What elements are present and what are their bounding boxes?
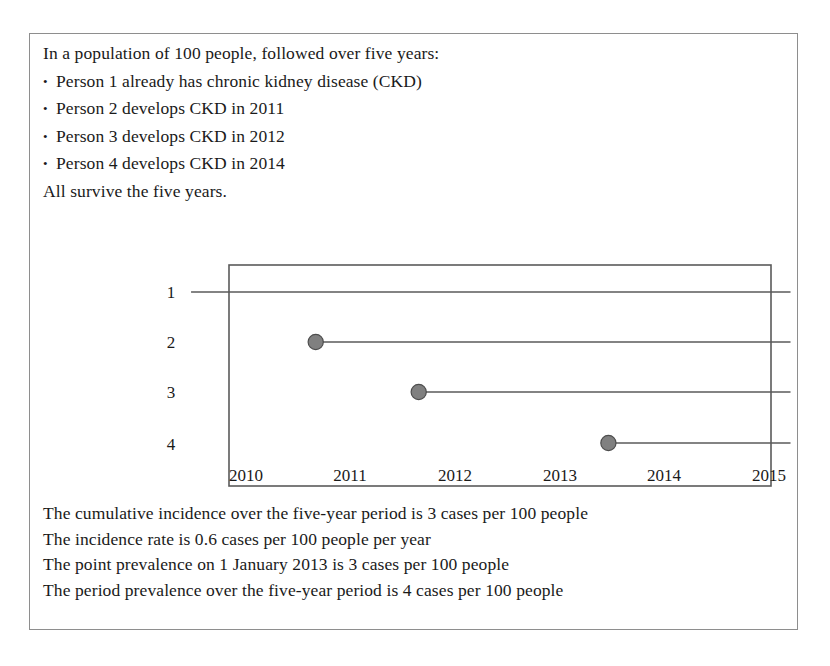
premise-bullet-3: • Person 3 develops CKD in 2012 xyxy=(43,123,643,151)
figure-frame: In a population of 100 people, followed … xyxy=(29,33,798,630)
y-axis-tick-3: 3 xyxy=(159,384,183,401)
conclusion-point-prevalence: The point prevalence on 1 January 2013 i… xyxy=(43,552,763,578)
conclusion-incidence-rate: The incidence rate is 0.6 cases per 100 … xyxy=(43,527,763,553)
x-axis-tick-2011: 2011 xyxy=(320,467,380,484)
timeline-chart: 1 2 3 4 2010 2011 2012 2013 2014 2015 xyxy=(30,224,799,489)
plot-border xyxy=(229,265,771,486)
bullet-icon: • xyxy=(43,68,48,96)
onset-marker-person-2 xyxy=(308,334,323,349)
y-axis-tick-2: 2 xyxy=(159,334,183,351)
onset-marker-person-4 xyxy=(601,435,616,450)
bullet-icon: • xyxy=(43,123,48,151)
bullet-icon: • xyxy=(43,150,48,178)
conclusion-period-prevalence: The period prevalence over the five-year… xyxy=(43,578,763,604)
premise-bullet-3-text: Person 3 develops CKD in 2012 xyxy=(56,126,285,146)
x-axis-tick-2013: 2013 xyxy=(530,467,590,484)
premise-block: In a population of 100 people, followed … xyxy=(43,40,643,205)
conclusions-block: The cumulative incidence over the five-y… xyxy=(43,501,763,603)
onset-marker-person-3 xyxy=(411,384,426,399)
premise-closing: All survive the five years. xyxy=(43,178,643,206)
y-axis-tick-1: 1 xyxy=(159,284,183,301)
x-axis-tick-2010: 2010 xyxy=(216,467,276,484)
premise-bullet-2: • Person 2 develops CKD in 2011 xyxy=(43,95,643,123)
chart-canvas xyxy=(30,224,799,489)
premise-bullet-4: • Person 4 develops CKD in 2014 xyxy=(43,150,643,178)
premise-intro: In a population of 100 people, followed … xyxy=(43,40,643,68)
x-axis-tick-2012: 2012 xyxy=(425,467,485,484)
premise-bullet-2-text: Person 2 develops CKD in 2011 xyxy=(56,98,284,118)
premise-bullet-1: • Person 1 already has chronic kidney di… xyxy=(43,68,643,96)
y-axis-tick-4: 4 xyxy=(159,436,183,453)
x-axis-tick-2015: 2015 xyxy=(739,467,799,484)
x-axis-tick-2014: 2014 xyxy=(634,467,694,484)
conclusion-cumulative-incidence: The cumulative incidence over the five-y… xyxy=(43,501,763,527)
bullet-icon: • xyxy=(43,95,48,123)
premise-bullet-1-text: Person 1 already has chronic kidney dise… xyxy=(56,71,422,91)
premise-bullet-4-text: Person 4 develops CKD in 2014 xyxy=(56,153,285,173)
